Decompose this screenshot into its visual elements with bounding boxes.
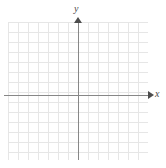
x-axis-arrow-icon — [148, 91, 154, 99]
y-axis-arrow-icon — [74, 17, 82, 23]
y-axis-label: y — [74, 4, 78, 14]
coordinate-plane: x y — [0, 0, 166, 168]
y-axis-line — [78, 23, 79, 160]
x-axis-label: x — [155, 89, 159, 99]
